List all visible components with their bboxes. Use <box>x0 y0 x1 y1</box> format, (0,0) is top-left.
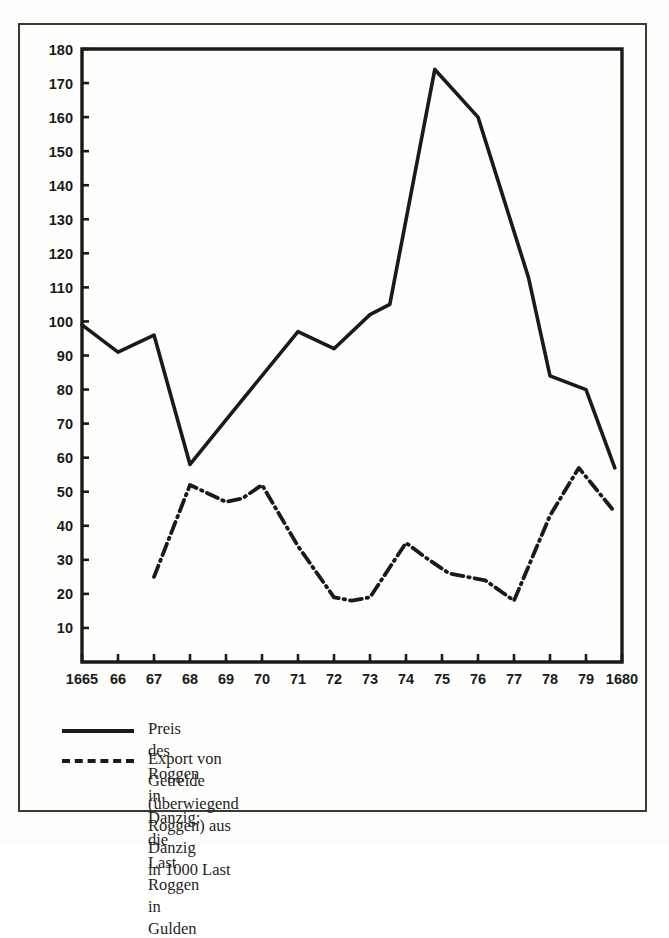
x-axis-tick-label: 68 <box>182 671 198 687</box>
y-axis-tick-label: 50 <box>57 484 73 500</box>
x-axis-tick-label: 76 <box>470 671 486 687</box>
x-axis-tick-label: 77 <box>506 671 522 687</box>
x-axis-tick-label: 78 <box>542 671 558 687</box>
plot-frame <box>82 49 622 662</box>
x-axis-tick-label: 67 <box>146 671 162 687</box>
y-axis-tick-label: 110 <box>50 280 73 296</box>
x-axis-tick-label: 73 <box>362 671 378 687</box>
x-axis-tick-label: 74 <box>398 671 414 687</box>
y-axis-tick-label: 90 <box>57 348 73 364</box>
y-axis-tick-label: 70 <box>57 416 73 432</box>
legend-swatch-dash-dot-line <box>62 759 134 763</box>
y-axis-tick-label: 120 <box>49 246 73 262</box>
y-axis-tick-label: 170 <box>49 76 73 92</box>
x-axis-tick-label: 71 <box>290 671 306 687</box>
y-axis-tick-label: 10 <box>57 620 73 636</box>
y-axis-tick-label: 150 <box>49 144 73 160</box>
x-axis-tick-label: 66 <box>110 671 126 687</box>
x-axis-tick-label: 79 <box>578 671 594 687</box>
y-axis-tick-label: 40 <box>57 518 73 534</box>
legend-label-export: Export von Getreide (überwiegend Roggen)… <box>148 748 239 882</box>
y-axis-tick-label: 30 <box>57 552 73 568</box>
series-line-price <box>82 69 615 467</box>
x-axis-tick-label: 72 <box>326 671 342 687</box>
x-axis-tick-label: 75 <box>434 671 450 687</box>
y-axis-tick-label: 180 <box>49 42 73 58</box>
x-axis-tick-label: 70 <box>254 671 270 687</box>
y-axis-tick-label: 160 <box>49 110 73 126</box>
x-axis-tick-label: 69 <box>218 671 234 687</box>
x-axis-tick-label: 1665 <box>66 671 98 687</box>
y-axis-tick-label: 140 <box>49 178 73 194</box>
y-axis-tick-label: 130 <box>49 212 73 228</box>
y-axis-tick-label: 80 <box>57 382 73 398</box>
y-axis-tick-label: 60 <box>57 450 73 466</box>
x-axis-tick-label: 1680 <box>606 671 638 687</box>
legend-swatch-solid-line <box>62 729 134 733</box>
series-line-export <box>154 468 615 601</box>
y-axis-tick-label: 100 <box>49 314 73 330</box>
y-axis-tick-label: 20 <box>57 586 73 602</box>
